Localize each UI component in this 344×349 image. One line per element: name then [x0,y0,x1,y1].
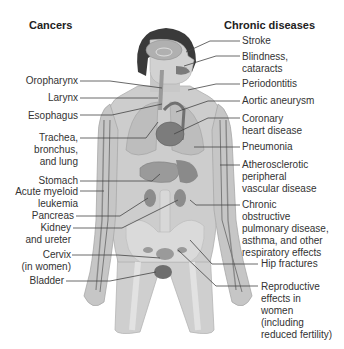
label-oropharynx: Oropharynx [26,75,78,87]
label-periodontitis: Periodontitis [242,78,297,90]
label-aortic-aneurysm: Aortic aneurysm [242,95,314,107]
chronic-diseases-header: Chronic diseases [224,19,315,31]
label-blindness-cataracts: Blindness, cataracts [242,51,288,75]
label-bladder: Bladder [30,275,64,287]
label-trachea-bronchus-lung: Trachea, bronchus, and lung [34,132,78,168]
label-esophagus: Esophagus [28,110,78,122]
label-hip-fractures: Hip fractures [261,258,318,270]
label-cervix: Cervix (in women) [22,249,71,273]
label-copd: Chronic obstructive pulmonary disease, a… [242,199,329,259]
label-stroke: Stroke [242,35,271,47]
label-kidney-ureter: Kidney and ureter [25,222,71,246]
label-reproductive-effects: Reproductive effects in women (including… [261,281,332,341]
cancers-header: Cancers [29,19,72,31]
label-acute-myeloid-leukemia: Acute myeloid leukemia [15,186,78,210]
label-pancreas: Pancreas [32,210,74,222]
label-atherosclerotic-pvd: Atherosclerotic peripheral vascular dise… [242,159,316,195]
label-pneumonia: Pneumonia [242,141,293,153]
label-coronary-heart-disease: Coronary heart disease [242,113,302,137]
label-larynx: Larynx [48,92,78,104]
